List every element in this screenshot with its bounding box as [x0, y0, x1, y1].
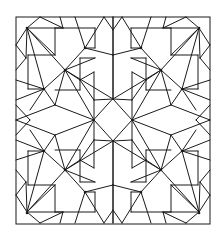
geometric-pattern-drawing: [0, 0, 221, 240]
vertex-hub: [198, 27, 201, 30]
vertex-hub: [198, 212, 201, 215]
vertex-hub: [140, 191, 143, 194]
vertex-hub: [140, 47, 143, 50]
vertex-hub: [181, 150, 184, 153]
vertex-hub: [160, 169, 163, 172]
vertex-hub: [43, 88, 46, 91]
pattern-lines: [16, 17, 210, 223]
vertex-hub: [43, 150, 46, 153]
vertex-hub: [26, 212, 29, 215]
vertex-hub: [84, 47, 87, 50]
vertex-hub: [181, 88, 184, 91]
vertex-hub: [84, 191, 87, 194]
vertex-hub: [26, 27, 29, 30]
vertex-hub: [160, 69, 163, 72]
vertex-hub: [64, 169, 67, 172]
vertex-hub: [64, 69, 67, 72]
central-diamond: [94, 99, 132, 141]
